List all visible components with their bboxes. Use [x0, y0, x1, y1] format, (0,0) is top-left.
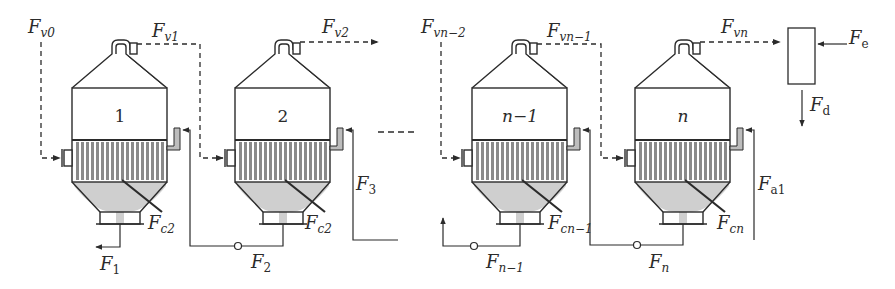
label-fa1: Fa1 [757, 173, 785, 197]
label-fv2: Fv2 [321, 16, 349, 40]
pump-icon [634, 242, 641, 249]
vessel-effect-n-1 [462, 40, 580, 224]
vessel-effect-n [625, 40, 743, 224]
vessel-label-1: 1 [115, 106, 126, 126]
label-fv0: Fv0 [27, 16, 55, 40]
label-fcn: Fcn [716, 212, 744, 236]
label-fn-1: Fn−1 [485, 251, 524, 275]
label-fe: Fe [848, 27, 869, 51]
label-f1: F1 [99, 253, 120, 277]
label-fc2-b: Fc2 [304, 212, 332, 236]
label-fvn: Fvn [720, 16, 748, 40]
label-f3: F3 [355, 173, 376, 197]
label-fd: Fd [809, 94, 831, 118]
vessel-label-2: 2 [278, 106, 289, 126]
evaporator-diagram: 1 2 n−1 n [0, 0, 895, 289]
pump-icon [471, 243, 478, 250]
label-f2: F2 [250, 251, 271, 275]
vessel-label-n-1: n−1 [502, 106, 538, 126]
vessel-effect-1 [62, 40, 180, 224]
vessel-label-n: n [678, 106, 689, 126]
label-fcn-1: Fcn−1 [547, 212, 593, 236]
label-fn: Fn [648, 251, 669, 275]
label-fvn-2: Fvn−2 [420, 16, 466, 40]
label-fvn-1: Fvn−1 [546, 20, 592, 44]
vessel-effect-2 [225, 40, 343, 224]
label-fv1: Fv1 [151, 20, 179, 44]
label-fc2-a: Fc2 [147, 212, 175, 236]
pump-icon [235, 243, 242, 250]
condenser-box [788, 28, 815, 84]
